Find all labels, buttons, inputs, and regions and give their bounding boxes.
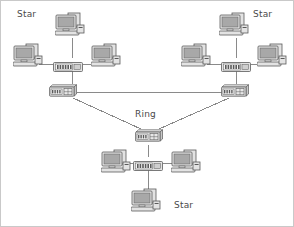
pc-top-left-east (91, 42, 125, 69)
hub-bottom (133, 157, 163, 169)
topology-label-ring-center: Ring (135, 109, 156, 119)
pc-bottom-east (171, 148, 205, 175)
hub-top-right (221, 58, 251, 70)
topology-label-star-top-right: Star (253, 9, 272, 19)
pc-top-right-north (219, 11, 253, 38)
topology-label-star-bottom: Star (174, 200, 193, 210)
connection-line-ring (73, 98, 141, 129)
connection-line-ring (159, 98, 229, 129)
switch-bottom (133, 129, 163, 145)
pc-top-right-east (257, 42, 291, 69)
hub-top-left (53, 58, 83, 70)
pc-top-left-west (13, 42, 47, 69)
pc-top-right-west (181, 42, 215, 69)
pc-bottom-south (131, 187, 165, 214)
topology-label-star-top-left: Star (17, 9, 36, 19)
pc-bottom-west (101, 148, 135, 175)
switch-top-left (47, 84, 77, 100)
network-topology-diagram: StarStarRingStar (0, 0, 294, 227)
switch-top-right (219, 84, 249, 100)
pc-top-left-north (55, 11, 89, 38)
